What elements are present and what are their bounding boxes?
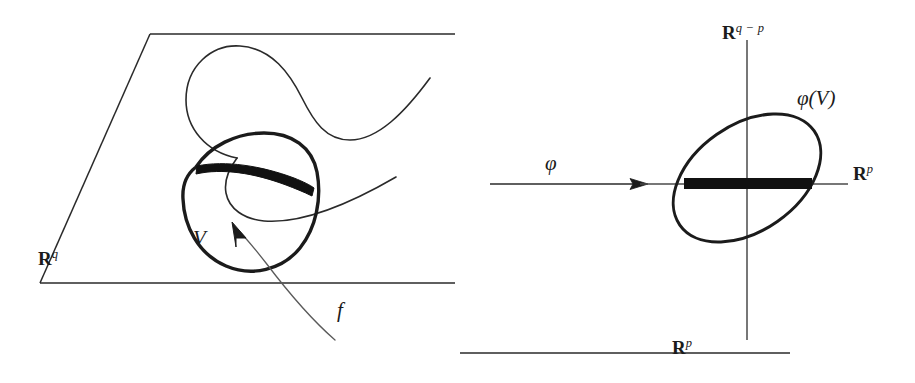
band-left-fill: [196, 164, 314, 196]
label-vertical-axis: Rq − p: [722, 22, 764, 42]
label-chart-map: φ: [545, 153, 557, 174]
thin-wavy-curve: [186, 46, 430, 221]
label-horizontal-axis: Rp: [853, 163, 873, 183]
label-embedding-map-text: f: [337, 298, 343, 322]
label-target-plane-sup: p: [686, 336, 693, 350]
label-source-plane: Rq: [38, 248, 58, 268]
label-vertical-axis-sup: q − p: [736, 21, 765, 35]
plane-parallelogram: [40, 34, 455, 283]
wavy-curve-upper-loop: [186, 46, 430, 158]
label-submanifold: V: [193, 228, 206, 249]
label-source-plane-sup: q: [52, 247, 59, 261]
label-target-plane: Rp: [672, 337, 692, 357]
f-arrow-head: [232, 222, 246, 247]
label-horizontal-axis-sup: p: [867, 162, 874, 176]
label-target-plane-base: R: [672, 337, 686, 358]
label-embedding-map: f: [337, 300, 343, 321]
coordinate-axes: [640, 40, 848, 340]
figure-canvas: Rq V f φ Rq − p φ(V) Rp Rp: [0, 0, 915, 383]
diagram-svg: [0, 0, 915, 383]
label-chart-map-text: φ: [545, 151, 557, 175]
thick-intersection-band-left: [196, 164, 314, 196]
band-right-fill: [684, 178, 812, 189]
label-image-set: φ(V): [797, 88, 835, 109]
label-source-plane-base: R: [38, 248, 52, 269]
thick-closed-loop-V: [183, 133, 319, 271]
plane-left-edge: [40, 34, 150, 283]
f-arrow: [232, 222, 335, 340]
label-image-set-text: φ(V): [797, 86, 835, 110]
phi-arrow: [490, 179, 648, 190]
loop-V-outline: [183, 133, 319, 271]
label-horizontal-axis-base: R: [853, 163, 867, 184]
label-submanifold-text: V: [193, 226, 206, 250]
f-arrow-shaft: [238, 230, 335, 340]
label-vertical-axis-base: R: [722, 22, 736, 43]
thick-intersection-band-right: [684, 178, 812, 189]
